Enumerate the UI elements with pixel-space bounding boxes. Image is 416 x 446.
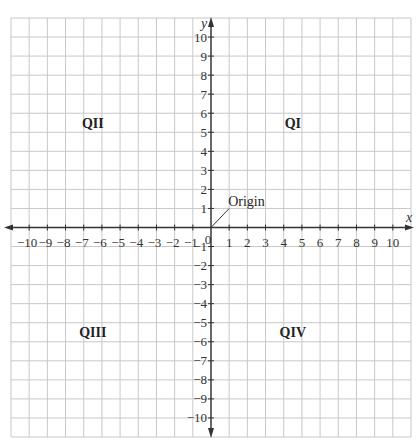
x-tick-label: 8 [353,235,360,250]
x-tick-label: 10 [386,235,399,250]
x-tick-label: 2 [244,235,251,250]
y-tick-label: 6 [201,106,208,121]
x-tick-label: −7 [75,235,89,250]
y-tick-label: −10 [187,410,207,425]
y-tick-label: 10 [194,30,207,45]
y-tick-label: 3 [201,163,208,178]
y-tick-label: −2 [193,258,207,273]
origin-label: Origin [228,194,265,209]
y-tick-label: −9 [193,391,207,406]
x-tick-label: −5 [111,235,125,250]
y-tick-label: 7 [201,87,208,102]
x-tick-label: −4 [129,235,143,250]
y-tick-label: −7 [193,353,207,368]
y-tick-label: 2 [201,182,208,197]
x-tick-label: 3 [262,235,269,250]
y-tick-label: −8 [193,372,207,387]
y-axis-label: y [199,16,208,31]
x-tick-label: −10 [17,235,37,250]
y-tick-label: 5 [201,125,208,140]
x-axis-left-arrow-icon [4,225,13,231]
x-tick-label: 7 [335,235,342,250]
x-tick-label: 6 [317,235,324,250]
x-tick-label: 5 [299,235,306,250]
y-tick-label: 4 [201,144,208,159]
y-tick-label: −6 [193,334,207,349]
x-axis-right-arrow-icon [405,225,414,231]
y-tick-label: 9 [201,49,208,64]
labels: −10−9−8−7−6−5−4−3−2−11234567891010987654… [17,16,413,425]
quadrant-label-qii: QII [82,116,104,131]
x-tick-label: 9 [371,235,378,250]
x-tick-label: 4 [280,235,287,250]
coordinate-plane: −10−9−8−7−6−5−4−3−2−11234567891010987654… [0,0,416,446]
x-tick-label: −3 [148,235,162,250]
y-tick-label: −5 [193,315,207,330]
x-tick-label: −2 [166,235,180,250]
y-tick-label: 1 [201,201,208,216]
origin-tick-label: 0 [205,232,212,247]
x-axis-label: x [405,210,413,225]
y-tick-label: −3 [193,277,207,292]
quadrant-label-qiv: QIV [280,325,306,340]
x-tick-label: −9 [38,235,52,250]
x-tick-label: −8 [57,235,71,250]
x-tick-label: 1 [226,235,233,250]
quadrant-label-qiii: QIII [79,325,106,340]
x-tick-label: −6 [93,235,107,250]
y-tick-label: −4 [193,296,207,311]
y-tick-label: 8 [201,68,208,83]
origin-leader-line [211,208,229,227]
quadrant-label-qi: QI [285,116,301,131]
